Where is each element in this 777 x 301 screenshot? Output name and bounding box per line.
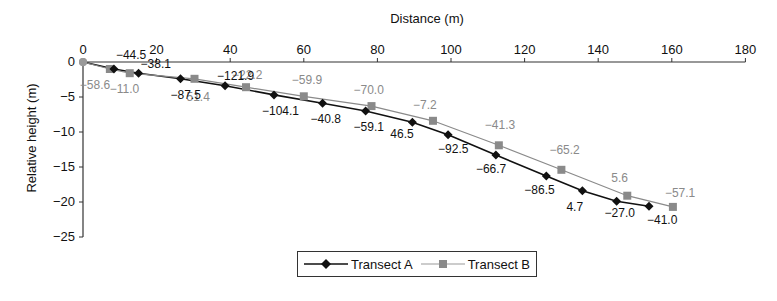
data-point-b <box>191 75 199 83</box>
legend-label-b: Transect B <box>468 257 530 272</box>
point-label-a: −92.5 <box>438 142 469 156</box>
x-tick-label: 180 <box>735 42 757 57</box>
point-label-b: −59.9 <box>292 73 323 87</box>
point-label-a: −40.8 <box>311 112 342 126</box>
y-tick-label: −20 <box>53 194 75 209</box>
y-axis-title: Relative height (m) <box>24 83 39 192</box>
data-point-b <box>242 83 250 91</box>
x-tick-label: 20 <box>149 42 163 57</box>
legend: Transect A Transect B <box>297 251 537 277</box>
data-point-b <box>300 92 308 100</box>
y-tick-label: −5 <box>60 89 75 104</box>
point-labels: −58.6−11.051.4−22.2−59.9−70.0−7.2−41.3−6… <box>80 48 696 227</box>
legend-item-transect-b: Transect B <box>421 257 530 272</box>
data-point-b <box>126 69 134 77</box>
point-label-a: −66.7 <box>476 162 507 176</box>
point-label-b: 5.6 <box>611 171 628 185</box>
point-label-b: −65.2 <box>549 143 580 157</box>
legend-label-a: Transect A <box>351 257 413 272</box>
point-label-a: −27.0 <box>605 206 636 220</box>
point-label-b: −57.1 <box>665 186 696 200</box>
x-tick-label: 0 <box>79 42 86 57</box>
diamond-marker-icon <box>304 258 348 270</box>
point-label-a: 46.5 <box>390 127 414 141</box>
data-point-a <box>578 186 587 195</box>
legend-item-transect-a: Transect A <box>304 257 413 272</box>
point-label-a: −59.1 <box>354 120 385 134</box>
point-label-b: −58.6 <box>80 78 111 92</box>
x-tick-label: 120 <box>514 42 536 57</box>
point-label-a: −41.0 <box>647 213 678 227</box>
x-axis-title: Distance (m) <box>390 11 464 26</box>
point-label-a: −38.1 <box>141 57 172 71</box>
x-tick-label: 140 <box>587 42 609 57</box>
y-tick-label: −10 <box>53 124 75 139</box>
point-label-a: −121.9 <box>217 69 254 83</box>
point-label-b: −11.0 <box>110 82 140 96</box>
data-point-a <box>491 151 500 160</box>
x-tick-label: 100 <box>440 42 462 57</box>
x-tick-label: 80 <box>370 42 384 57</box>
data-point-a <box>176 74 185 83</box>
data-point-a <box>644 202 653 211</box>
y-tick-label: −15 <box>53 159 75 174</box>
data-point-a <box>318 99 327 108</box>
x-tick-label: 60 <box>297 42 311 57</box>
x-tick-label: 40 <box>223 42 237 57</box>
data-point-a <box>444 130 453 139</box>
point-label-a: −104.1 <box>262 104 299 118</box>
square-marker-icon <box>421 258 465 270</box>
y-tick-label: −25 <box>53 229 75 244</box>
data-point-b <box>557 166 565 174</box>
point-label-b: −7.2 <box>413 98 437 112</box>
data-point-a <box>542 172 551 181</box>
data-point-b <box>368 102 376 110</box>
origin-marker <box>79 58 87 66</box>
data-point-b <box>669 203 677 211</box>
data-point-a <box>408 118 417 127</box>
y-tick-label: 0 <box>68 54 75 69</box>
series-group <box>79 58 677 211</box>
point-label-a: −86.5 <box>524 183 555 197</box>
data-point-b <box>495 141 503 149</box>
point-label-b: −41.3 <box>485 118 516 132</box>
point-label-a: 4.7 <box>566 200 583 214</box>
point-label-b: −70.0 <box>354 83 385 97</box>
data-point-b <box>623 192 631 200</box>
x-tick-label: 160 <box>661 42 683 57</box>
data-point-a <box>612 197 621 206</box>
data-point-b <box>429 117 437 125</box>
point-label-a: −87.5 <box>171 88 202 102</box>
